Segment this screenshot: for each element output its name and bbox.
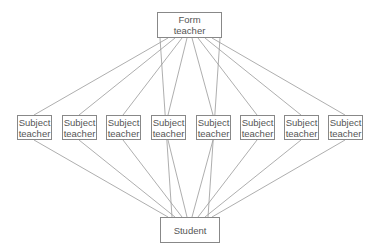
subject-teacher-node-8: Subjectteacher xyxy=(328,115,363,140)
student-node: Student xyxy=(160,217,220,243)
teacher-label: teacher xyxy=(19,128,51,139)
subject-teacher-node-4: Subjectteacher xyxy=(151,115,186,140)
teacher-label: teacher xyxy=(286,128,318,139)
subject-label: Subject xyxy=(286,117,318,128)
teacher-label: teacher xyxy=(64,128,96,139)
teacher-label: teacher xyxy=(198,128,230,139)
form-teacher-node: Form teacher xyxy=(157,12,222,38)
teacher-label: teacher xyxy=(242,128,274,139)
subject-label: Subject xyxy=(64,117,96,128)
subject-teacher-node-6: Subjectteacher xyxy=(240,115,275,140)
subject-teacher-node-5: Subjectteacher xyxy=(196,115,231,140)
subject-teacher-node-1: Subjectteacher xyxy=(17,115,52,140)
teacher-label: teacher xyxy=(330,128,362,139)
subject-teacher-node-3: Subjectteacher xyxy=(106,115,141,140)
subject-label: Subject xyxy=(330,117,362,128)
teacher-label: teacher xyxy=(108,128,140,139)
subject-label: Subject xyxy=(108,117,140,128)
form-teacher-label-line2: teacher xyxy=(174,25,206,36)
subject-label: Subject xyxy=(19,117,51,128)
form-teacher-label-line1: Form xyxy=(174,14,206,25)
subject-teacher-node-7: Subjectteacher xyxy=(284,115,319,140)
subject-label: Subject xyxy=(153,117,185,128)
subject-label: Subject xyxy=(242,117,274,128)
subject-teacher-node-2: Subjectteacher xyxy=(62,115,97,140)
teacher-label: teacher xyxy=(153,128,185,139)
subject-label: Subject xyxy=(198,117,230,128)
student-label: Student xyxy=(174,225,207,236)
